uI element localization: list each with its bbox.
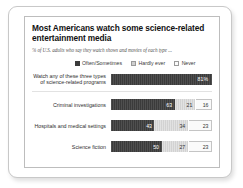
chart-card: Most Americans watch some science-relate… [24,16,220,168]
bar-segment-often-criminal: 63 [111,99,175,110]
legend-label-often: Often/Sometimes [82,60,122,66]
chart-legend: Often/Sometimes Hardly ever Never [32,60,212,66]
bar-segment-never-hospitals: 23 [189,120,212,131]
chart-rows: Watch any of these three types of scienc… [32,69,212,157]
bar-scifi: 50 27 23 [111,141,212,152]
bar-hospitals: 43 34 23 [111,120,212,131]
bar-label-summary: Watch any of these three types of scienc… [32,73,111,86]
bar-row-hospitals: Hospitals and medical settings 43 34 23 [32,115,212,136]
bar-label-scifi: Science fiction [32,144,111,151]
legend-label-never: Never [182,60,196,66]
legend-item-often: Often/Sometimes [75,60,123,66]
outer-frame: Most Americans watch some science-relate… [8,6,232,178]
bar-row-scifi: Science fiction 50 27 23 [32,136,212,157]
chart-title: Most Americans watch some science-relate… [32,23,212,43]
section-divider [32,91,212,92]
bar-row-criminal: Criminal investigations 63 21 16 [32,94,212,115]
chart-subtitle: % of U.S. adults who say they watch show… [32,47,212,54]
bar-summary: 81% [111,74,212,85]
bar-segment-hardly-hospitals: 34 [154,120,188,131]
bar-label-criminal: Criminal investigations [32,102,111,109]
bar-segment-never-criminal: 16 [196,99,212,110]
bar-segment-never-scifi: 23 [189,141,212,152]
bar-criminal: 63 21 16 [111,99,212,110]
bar-segment-hardly-scifi: 27 [162,141,189,152]
legend-label-hardly: Hardly ever [139,60,166,66]
legend-swatch-never-icon [174,61,179,66]
legend-item-never: Never [174,60,195,66]
bar-row-summary: Watch any of these three types of scienc… [32,69,212,89]
legend-swatch-hardly-icon [131,61,136,66]
bar-segment-often-hospitals: 43 [111,120,154,131]
bar-segment-often-scifi: 50 [111,141,162,152]
legend-item-hardly: Hardly ever [131,60,165,66]
bar-label-hospitals: Hospitals and medical settings [32,123,111,130]
bar-segment-hardly-criminal: 21 [175,99,196,110]
bar-segment-often-summary: 81% [111,74,212,85]
legend-swatch-often-icon [75,61,80,66]
